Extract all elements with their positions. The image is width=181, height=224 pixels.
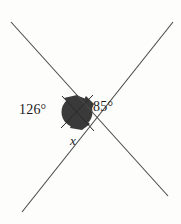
line-upper-right-to-lower-left: [22, 22, 173, 212]
angle-label-right: 85°: [93, 100, 113, 114]
angle-label-left: 126°: [19, 103, 46, 117]
angle-label-unknown: x: [70, 134, 76, 147]
geometry-figure: 126° 85° x: [0, 0, 181, 224]
